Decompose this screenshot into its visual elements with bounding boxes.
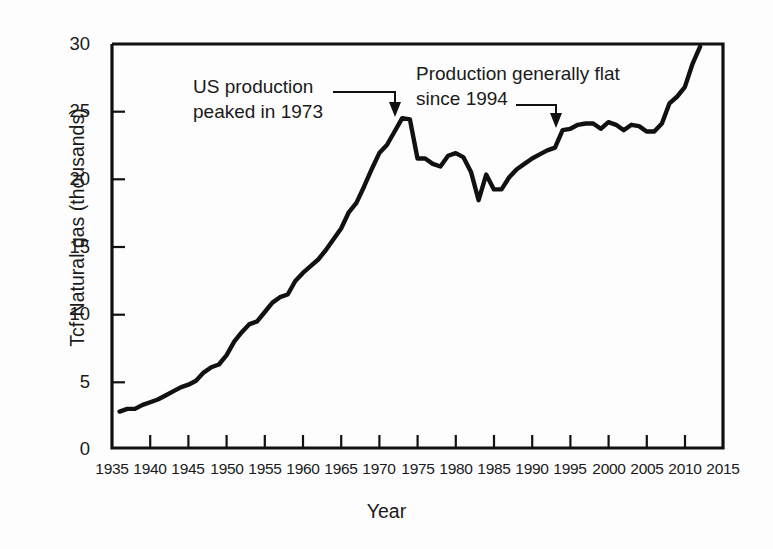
annotation-flat-line2: since 1994	[416, 86, 620, 111]
x-tick-label-1935: 1935	[93, 460, 131, 478]
x-tick-label-2010: 2010	[666, 460, 704, 478]
annotation-flat: Production generally flat since 1994	[416, 61, 620, 111]
x-tick-marks	[150, 435, 685, 448]
y-tick-label-0: 0	[48, 438, 90, 460]
chart-figure: 30 25 20 15 10 5 0 1935 1940 1945 1950 1…	[0, 0, 773, 549]
x-tick-label-1955: 1955	[246, 460, 284, 478]
annotation-peak-line2: peaked in 1973	[193, 99, 323, 124]
x-tick-label-1995: 1995	[551, 460, 589, 478]
x-tick-label-2005: 2005	[628, 460, 666, 478]
annotation-flat-line1: Production generally flat	[416, 61, 620, 86]
x-tick-label-1990: 1990	[513, 460, 551, 478]
x-tick-label-2000: 2000	[590, 460, 628, 478]
x-tick-label-1950: 1950	[208, 460, 246, 478]
x-axis-title: Year	[0, 500, 773, 523]
x-tick-label-1970: 1970	[360, 460, 398, 478]
y-axis-title: Tcf Natural gas (thousands)	[66, 38, 89, 418]
y-tick-marks	[112, 112, 125, 383]
x-tick-label-1980: 1980	[437, 460, 475, 478]
x-tick-label-1940: 1940	[131, 460, 169, 478]
annotation-leader-peak	[333, 92, 401, 117]
x-tick-label-2015: 2015	[704, 460, 742, 478]
annotation-peak: US production peaked in 1973	[193, 74, 323, 124]
x-tick-label-1945: 1945	[169, 460, 207, 478]
x-tick-label-1965: 1965	[322, 460, 360, 478]
x-tick-label-1960: 1960	[284, 460, 322, 478]
annotation-peak-line1: US production	[193, 74, 323, 99]
x-tick-label-1975: 1975	[399, 460, 437, 478]
x-tick-label-1985: 1985	[475, 460, 513, 478]
